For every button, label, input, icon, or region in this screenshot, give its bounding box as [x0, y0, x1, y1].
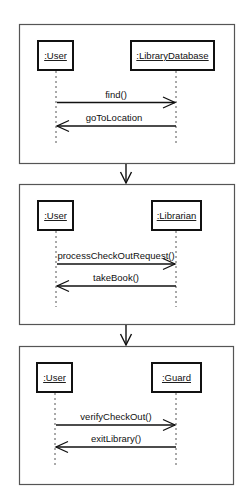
message-label: find(): [105, 89, 127, 100]
frame-3: :User :Guard verifyCheckOut() exitLibrar…: [20, 347, 234, 485]
object-library-database: :LibraryDatabase: [131, 41, 214, 70]
sequence-diagram-canvas: :User :LibraryDatabase find() goToLocati…: [0, 0, 248, 504]
object-user-2: :User: [38, 201, 73, 230]
object-user-1: :User: [38, 41, 73, 70]
connector-frame-2-to-3: [121, 325, 132, 345]
message-label: goToLocation: [86, 112, 143, 123]
object-label: :Librarian: [157, 210, 197, 221]
object-label: :LibraryDatabase: [136, 50, 208, 61]
object-librarian: :Librarian: [152, 201, 201, 230]
object-label: :User: [44, 210, 67, 221]
object-guard: :Guard: [152, 363, 201, 392]
message-label: exitLibrary(): [91, 433, 141, 444]
message-label: verifyCheckOut(): [80, 411, 151, 422]
frame-1: :User :LibraryDatabase find() goToLocati…: [20, 25, 235, 164]
message-label: takeBook(): [93, 272, 139, 283]
connector-frame-1-to-2: [121, 164, 132, 183]
frame-2: :User :Librarian processCheckOutRequest(…: [20, 185, 235, 325]
object-label: :User: [43, 372, 66, 383]
object-user-3: :User: [37, 363, 72, 392]
object-label: :User: [44, 50, 67, 61]
object-label: :Guard: [162, 372, 191, 383]
message-label: processCheckOutRequest(): [57, 250, 174, 261]
